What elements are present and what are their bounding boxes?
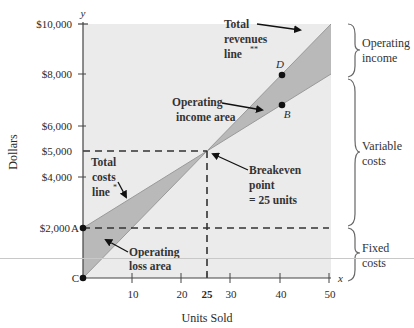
fixed-costs-brace [348,228,360,281]
y-tick-4000: $4,000 [42,171,73,183]
loss-area-label-1: Operating [129,246,180,259]
loss-area-label-2: loss area [129,260,172,272]
point-a [80,225,87,232]
point-b-label: B [284,108,291,120]
brace-income-label-2: income [362,51,397,65]
brace-fixed-label-1: Fixed [362,241,389,255]
x-tick-30: 30 [226,288,238,300]
x-tick-50: 50 [325,288,337,300]
point-d-label: D [275,58,284,70]
revenues-label-2: revenues [224,33,268,45]
breakeven-label-2: point [249,179,275,192]
x-tick-20: 20 [177,288,189,300]
costs-label-1: Total [91,156,116,168]
x-axis-title: Units Sold [181,311,232,325]
x-tick-10: 10 [128,288,140,300]
brace-variable-label-1: Variable [362,139,402,153]
y-axis-symbol: y [80,7,86,19]
x-tick-25: 25 [202,288,214,300]
breakeven-label-1: Breakeven [249,164,302,176]
costs-label-3: line [92,186,110,198]
breakeven-chart: $10,000 $8,000 $6,000 $5,000 $4,000 $2,0… [0,0,414,328]
point-a-label: A [71,222,79,234]
revenues-label-1: Total [224,18,249,30]
x-axis-symbol: x [337,272,343,284]
point-c-label: C [72,272,79,284]
income-area-label-2: income area [176,111,236,123]
brace-income-label-1: Operating [362,36,410,50]
y-tick-6000: $6,000 [42,120,73,132]
brace-variable-label-2: costs [362,154,386,168]
revenues-label-sup: ** [250,45,258,54]
costs-label-2: costs [92,171,116,183]
point-d [279,72,286,79]
operating-income-brace [348,24,360,77]
costs-label-sup: * [113,183,117,192]
revenues-label-3: line [224,48,242,60]
income-area-label-1: Operating [172,96,223,109]
y-tick-5000: $5,000 [42,145,73,157]
y-tick-8000: $8,000 [42,68,73,80]
y-axis-title: Dollars [6,134,20,170]
y-tick-2000: $2,000 [40,222,71,234]
x-tick-40: 40 [276,288,288,300]
y-tick-10000: $10,000 [36,18,72,30]
variable-costs-brace [348,79,360,226]
breakeven-label-3: = 25 units [249,194,298,206]
point-c [80,275,87,282]
